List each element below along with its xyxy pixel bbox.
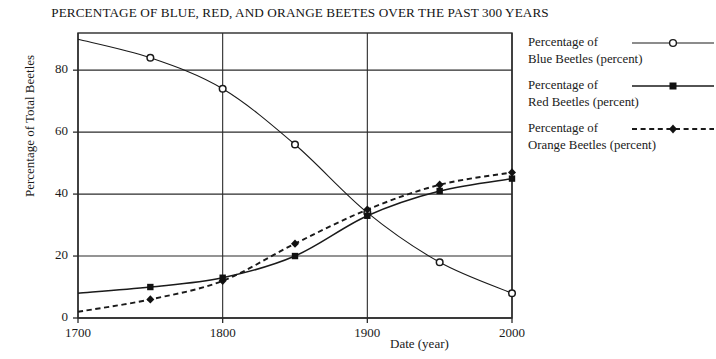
- legend-entry-orange: Percentage of Orange Beetles (percent): [528, 120, 716, 153]
- data-point-blue-2000: [509, 290, 516, 297]
- data-point-red-1750: [147, 284, 153, 290]
- legend-swatch-orange-filled-diamond-icon: [630, 121, 716, 137]
- x-tick-label-1900: 1900: [337, 325, 397, 341]
- plot-frame: [78, 33, 512, 318]
- y-tick-label-60: 60: [34, 123, 68, 139]
- legend-swatch-blue-open-circle-icon: [630, 35, 716, 51]
- legend-label-red-line2: Red Beetles (percent): [528, 94, 716, 111]
- data-point-blue-1750: [147, 54, 154, 61]
- data-point-orange-1750: [146, 295, 154, 303]
- series-line-red: [78, 179, 512, 294]
- data-series: [78, 39, 516, 312]
- y-axis-label: Percentage of Total Beetles: [22, 26, 38, 226]
- grid-lines: [78, 33, 512, 318]
- legend-entry-red: Percentage of Red Beetles (percent): [528, 77, 716, 110]
- data-point-blue-1850: [292, 141, 299, 148]
- legend-swatch-red-filled-square-icon: [630, 78, 716, 94]
- y-tick-label-80: 80: [34, 61, 68, 77]
- x-axis-label: Date (year): [390, 336, 449, 352]
- data-point-red-1850: [292, 253, 298, 259]
- chart-figure: PERCENTAGE OF BLUE, RED, AND ORANGE BEET…: [0, 0, 716, 359]
- x-tick-label-1700: 1700: [48, 325, 108, 341]
- chart-legend: Percentage of Blue Beetles (percent) Per…: [528, 34, 716, 163]
- data-point-blue-1800: [219, 85, 226, 92]
- x-tick-label-2000: 2000: [482, 325, 542, 341]
- data-point-orange-1950: [436, 181, 444, 189]
- legend-label-orange-line2: Orange Beetles (percent): [528, 137, 716, 154]
- data-point-blue-1950: [436, 259, 443, 266]
- y-tick-label-0: 0: [34, 309, 68, 325]
- data-point-orange-2000: [508, 168, 516, 176]
- legend-entry-blue: Percentage of Blue Beetles (percent): [528, 34, 716, 67]
- data-point-orange-1850: [291, 239, 299, 247]
- y-tick-label-20: 20: [34, 247, 68, 263]
- legend-label-blue-line2: Blue Beetles (percent): [528, 51, 716, 68]
- x-tick-label-1800: 1800: [193, 325, 253, 341]
- axis-lines: [73, 33, 512, 323]
- y-tick-label-40: 40: [34, 185, 68, 201]
